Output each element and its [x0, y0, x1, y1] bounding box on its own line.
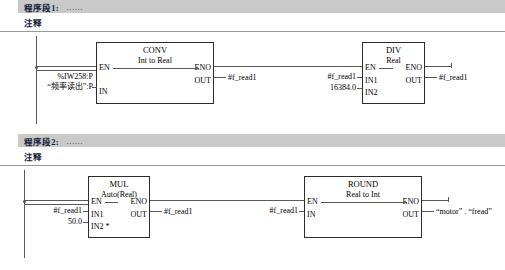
block-mul-internal-line	[105, 202, 118, 203]
operand-conv-in-symbol: “频率读出”:P	[38, 82, 93, 92]
operand-conv-in-address: %IW258:P	[38, 72, 93, 82]
network-1-title-bar[interactable]: 程序段1: ......	[18, 0, 505, 13]
network-2-title-dots: ......	[67, 136, 83, 146]
block-div[interactable]: DIV Real EN ENO IN1 IN2 OUT	[362, 42, 425, 104]
operand-div-out[interactable]: #f_read1	[439, 73, 467, 83]
network-2-title-bar[interactable]: 程序段2: ......	[18, 134, 505, 147]
wire-mul-eno-to-round-en	[150, 200, 304, 201]
block-conv-internal-line	[113, 68, 199, 69]
block-round-pin-out[interactable]: OUT	[403, 211, 419, 219]
network-2-canvas: MUL Auto(Real) EN ENO IN1 IN2 * OUT #f_r…	[0, 166, 505, 266]
network-1-title-dots: ......	[67, 2, 83, 12]
operand-mul-in2[interactable]: 50.0	[26, 217, 82, 227]
block-mul-pin-in1[interactable]: IN1	[91, 211, 103, 219]
wire-div-eno	[425, 66, 451, 67]
wire-round-eno-terminator	[448, 197, 449, 202]
block-mul-pin-en[interactable]: EN	[91, 198, 102, 206]
network-2-segment-label: 程序段2:	[24, 135, 59, 147]
block-round-pin-in[interactable]: IN	[307, 211, 315, 219]
block-conv-pin-en[interactable]: EN	[99, 64, 110, 72]
wire-conv-in-stub	[92, 87, 97, 88]
block-round-name: ROUND	[305, 180, 421, 190]
wire-mul-in2-stub	[83, 222, 88, 223]
block-div-pin-in1[interactable]: IN1	[365, 77, 377, 85]
wire-div-in1-stub	[357, 77, 362, 78]
wire-div-eno-terminator	[451, 63, 452, 68]
wire-conv-eno-to-div-en	[214, 66, 362, 67]
operand-round-in[interactable]: #f_read1	[240, 206, 298, 216]
operand-mul-in1[interactable]: #f_read1	[26, 206, 82, 216]
wire-div-out	[425, 77, 437, 78]
block-mul[interactable]: MUL Auto(Real) EN ENO IN1 IN2 * OUT	[88, 176, 150, 238]
wire-round-eno	[422, 200, 448, 201]
operand-mul-out[interactable]: #f_read1	[164, 207, 192, 217]
block-conv[interactable]: CONV Int to Real EN ENO IN OUT	[96, 42, 214, 104]
network-1-comment[interactable]: 注释	[24, 16, 42, 28]
block-conv-pin-in[interactable]: IN	[99, 88, 107, 96]
operand-round-out[interactable]: “motor” . “fread”	[436, 207, 492, 217]
wire-mul-out	[150, 211, 162, 212]
block-div-pin-in2[interactable]: IN2	[365, 89, 377, 97]
block-div-pin-eno[interactable]: ENO	[406, 64, 422, 72]
block-div-internal-line	[379, 68, 393, 69]
wire-round-in-stub	[299, 211, 304, 212]
block-round[interactable]: ROUND Real to Int EN ENO IN OUT	[304, 176, 422, 238]
wire-mul-in1-stub	[83, 211, 88, 212]
block-round-pin-en[interactable]: EN	[307, 198, 318, 206]
block-mul-pin-out[interactable]: OUT	[131, 211, 147, 219]
wire-conv-out	[214, 77, 226, 78]
block-mul-pin-eno[interactable]: ENO	[131, 198, 147, 206]
network-2-comment[interactable]: 注释	[24, 150, 42, 162]
network-1: 程序段1: ...... 注释 CONV Int to Real EN ENO …	[0, 0, 505, 131]
block-div-name: DIV	[363, 46, 424, 56]
block-mul-pin-in2[interactable]: IN2 *	[91, 223, 109, 231]
block-round-internal-line	[321, 202, 407, 203]
operand-div-in2[interactable]: 16384.0	[298, 83, 356, 93]
network-2: 程序段2: ...... 注释 MUL Auto(Real) EN ENO IN…	[0, 134, 505, 270]
wire-rail-to-conv-en	[37, 66, 96, 71]
block-mul-name: MUL	[89, 180, 149, 190]
block-conv-name: CONV	[97, 46, 213, 56]
operand-conv-in[interactable]: %IW258:P “频率读出”:P	[38, 72, 93, 91]
network-1-canvas: CONV Int to Real EN ENO IN OUT %IW258:P …	[0, 32, 505, 130]
wire-round-out	[422, 211, 434, 212]
block-conv-pin-out[interactable]: OUT	[195, 77, 211, 85]
block-div-pin-en[interactable]: EN	[365, 64, 376, 72]
operand-div-in1[interactable]: #f_read1	[298, 72, 356, 82]
lad-editor-canvas: 程序段1: ...... 注释 CONV Int to Real EN ENO …	[0, 0, 505, 270]
network-1-segment-label: 程序段1:	[24, 1, 59, 13]
power-rail-2	[24, 170, 25, 258]
block-div-pin-out[interactable]: OUT	[406, 77, 422, 85]
wire-div-in2-stub	[357, 88, 362, 89]
wire-rail-to-mul-en	[25, 200, 88, 205]
operand-conv-out[interactable]: #f_read1	[228, 73, 256, 83]
power-rail-1	[36, 36, 37, 124]
